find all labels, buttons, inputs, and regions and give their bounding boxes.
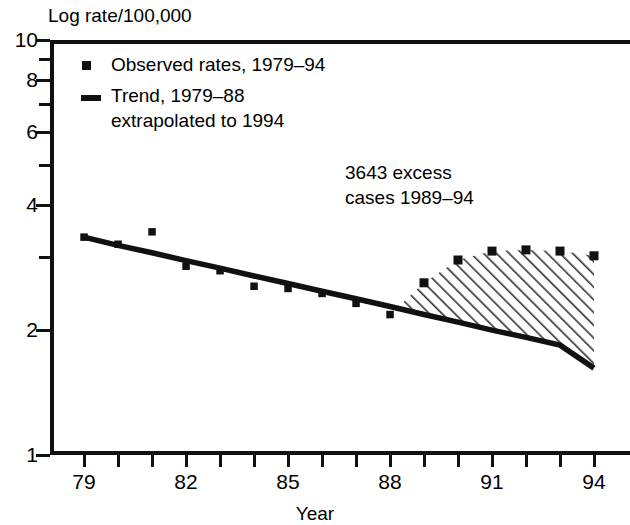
observed-rate-marker [114, 241, 122, 249]
observed-rate-marker [590, 251, 599, 260]
annotation-line-2: cases 1989–94 [345, 185, 474, 210]
observed-rate-marker [148, 228, 156, 236]
observed-rate-marker [182, 263, 190, 271]
observed-rate-marker [454, 256, 463, 265]
observed-rate-marker [386, 311, 394, 319]
line-marker-icon [81, 95, 101, 101]
observed-rate-marker [420, 278, 429, 287]
observed-rate-marker [488, 247, 497, 256]
observed-rate-marker [216, 267, 224, 275]
legend-entry-observed: Observed rates, 1979–94 [82, 52, 382, 77]
legend-entry-trend: Trend, 1979–88 extrapolated to 1994 [82, 83, 382, 133]
observed-rate-marker [80, 233, 88, 241]
legend-label-trend-line2: extrapolated to 1994 [111, 108, 382, 133]
chart-figure: Log rate/100,000 1086421 798285889194 Ob… [0, 0, 630, 525]
observed-rate-marker [250, 283, 257, 291]
chart-legend: Observed rates, 1979–94 Trend, 1979–88 e… [82, 52, 382, 139]
observed-rate-marker [556, 247, 565, 256]
legend-label-trend-line1: Trend, 1979–88 [111, 83, 382, 108]
observed-rate-marker [284, 285, 292, 293]
observed-rate-marker [522, 245, 531, 254]
annotation-line-1: 3643 excess [345, 160, 474, 185]
observed-rate-marker [352, 300, 360, 308]
square-marker-icon [82, 61, 91, 70]
x-axis-title: Year [0, 503, 630, 525]
observed-rate-marker [318, 290, 326, 298]
legend-label-observed: Observed rates, 1979–94 [111, 52, 382, 77]
excess-cases-annotation: 3643 excess cases 1989–94 [345, 160, 474, 210]
